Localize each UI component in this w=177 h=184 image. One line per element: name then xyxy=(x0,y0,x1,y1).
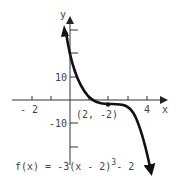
y-ticks xyxy=(70,30,78,147)
x-axis-label: x xyxy=(162,104,168,115)
point-label: (2, -2) xyxy=(76,109,118,120)
curve-start-arrow xyxy=(61,25,69,37)
function-graph: y x - 2 4 10 -10 (2, -2) f(x) = -3(x - 2… xyxy=(0,0,177,184)
y-tick-label-10: 10 xyxy=(55,72,67,83)
point-marker xyxy=(106,102,110,106)
equation-tail: - 2 xyxy=(116,161,134,172)
y-tick-label-neg10: -10 xyxy=(49,118,67,129)
y-axis-label: y xyxy=(60,9,66,20)
equation-label: f(x) = -3(x - 2)3- 2 xyxy=(15,158,134,172)
equation-main: f(x) = -3(x - 2) xyxy=(15,161,111,172)
x-tick-label-4: 4 xyxy=(144,104,150,115)
function-curve xyxy=(66,32,151,172)
x-tick-label-neg2: - 2 xyxy=(20,104,38,115)
